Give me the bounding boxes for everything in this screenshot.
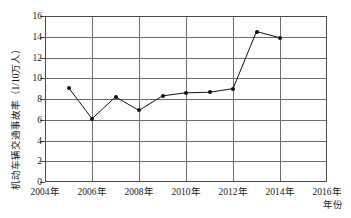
y-axis-tick-label: 14 [8,32,42,42]
gridline-vertical [186,17,187,181]
data-point-marker [184,91,188,95]
y-axis-tick-label: 12 [8,53,42,63]
y-axis-tick-label: 2 [8,156,42,166]
y-axis-tick-label: 0 [8,177,42,187]
y-axis-tick-label: 6 [8,115,42,125]
traffic-accident-rate-line-chart: 机动车辆交通事故率（1/10万人） 0246810121416 2004年200… [0,0,351,218]
y-axis-tick-group: 0246810121416 [0,0,42,218]
data-point-marker [114,95,118,99]
gridline-vertical [233,17,234,181]
data-point-marker [208,90,212,94]
x-axis-tick-label: 2016年 [299,187,351,198]
y-axis-tick-label: 4 [8,136,42,146]
gridline-vertical [139,17,140,181]
data-point-marker [67,86,71,90]
plot-area [45,16,327,182]
y-axis-tick-label: 10 [8,73,42,83]
y-axis-tick-label: 8 [8,94,42,104]
data-point-marker [278,36,282,40]
data-point-marker [161,94,165,98]
gridline-vertical [92,17,93,181]
data-point-marker [255,30,259,34]
data-point-marker [231,87,235,91]
gridline-vertical [280,17,281,181]
x-axis-title: 年份 [323,200,343,211]
y-axis-tick-label: 16 [8,11,42,21]
data-point-marker [90,117,94,121]
